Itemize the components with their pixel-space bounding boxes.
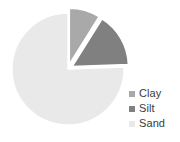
legend-item-silt[interactable]: Silt — [129, 102, 180, 115]
pie-plot-area — [0, 0, 130, 142]
legend-item-clay[interactable]: Clay — [129, 87, 180, 100]
pie-svg — [0, 0, 130, 142]
legend-label-clay: Clay — [139, 88, 161, 99]
legend-swatch-sand — [129, 121, 135, 127]
pie-chart-figure: Clay Silt Sand — [0, 0, 180, 142]
legend-label-silt: Silt — [139, 103, 155, 114]
chart-legend: Clay Silt Sand — [129, 87, 180, 130]
legend-swatch-clay — [129, 91, 135, 97]
legend-swatch-silt — [129, 106, 135, 112]
pie-slice-group — [12, 8, 128, 125]
legend-label-sand: Sand — [139, 118, 165, 129]
legend-item-sand[interactable]: Sand — [129, 117, 180, 130]
